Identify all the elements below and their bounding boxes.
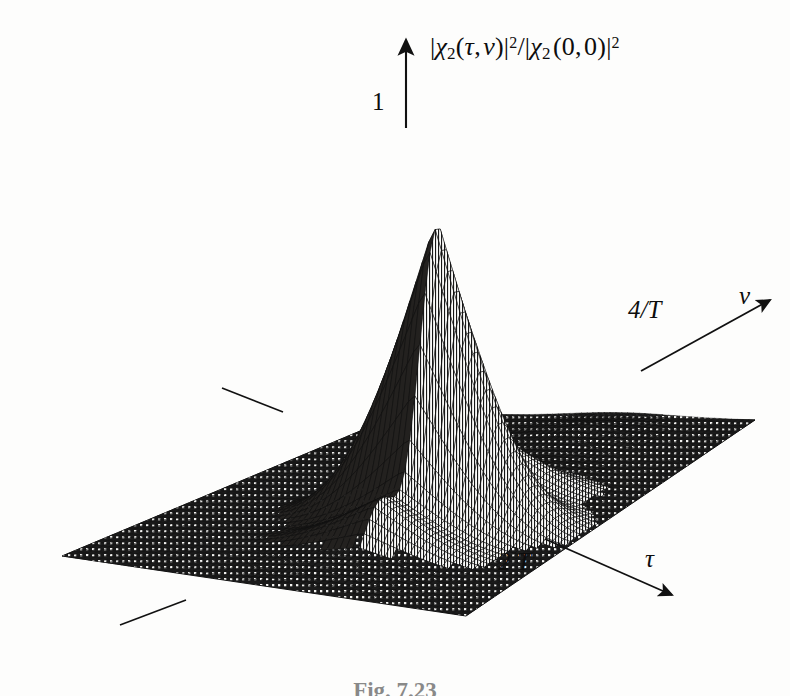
z-axis-tick-label: 1 xyxy=(372,88,385,116)
nu-axis-tick-label: 4/T xyxy=(628,296,661,324)
tau-axis-tick-lower-left xyxy=(120,600,186,625)
ambiguity-function-surface-plot xyxy=(0,0,790,696)
tau-axis-tick-label: 2 T xyxy=(498,548,531,576)
figure-root: |χ2(τ, ν)|2/|χ2 (0, 0)|2 1 4/T 2 T ν τ F… xyxy=(0,0,790,696)
z-axis-label: |χ2(τ, ν)|2/|χ2 (0, 0)|2 xyxy=(430,32,620,64)
nu-axis-label: ν xyxy=(739,282,750,310)
tau-axis-label: τ xyxy=(645,545,654,573)
nu-axis-tick-upper-left xyxy=(222,388,283,412)
figure-caption: Fig. 7.23 xyxy=(0,678,790,696)
